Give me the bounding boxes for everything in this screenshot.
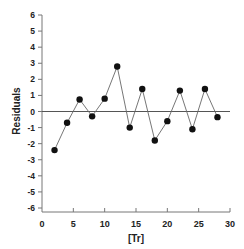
x-tick-label: 25 bbox=[194, 219, 204, 229]
data-series bbox=[51, 63, 220, 153]
x-tick-label: 30 bbox=[225, 219, 235, 229]
y-tick-label: -5 bbox=[27, 187, 35, 197]
y-tick-label: 6 bbox=[30, 10, 35, 20]
data-point bbox=[64, 120, 70, 126]
y-tick-label: 1 bbox=[30, 90, 35, 100]
y-tick-label: 0 bbox=[30, 107, 35, 117]
x-tick-label: 20 bbox=[162, 219, 172, 229]
data-point bbox=[202, 86, 208, 92]
y-tick-label: -2 bbox=[27, 139, 35, 149]
x-tick-label: 15 bbox=[131, 219, 141, 229]
y-tick-label: 4 bbox=[30, 42, 35, 52]
y-tick-label: 5 bbox=[30, 26, 35, 36]
data-point bbox=[101, 95, 107, 101]
data-point bbox=[164, 118, 170, 124]
y-tick-label: -4 bbox=[27, 171, 35, 181]
y-axis-label: Residuals bbox=[11, 87, 22, 135]
data-point bbox=[89, 113, 95, 119]
data-point bbox=[152, 137, 158, 143]
data-point bbox=[51, 147, 57, 153]
x-tick-label: 10 bbox=[100, 219, 110, 229]
data-point bbox=[139, 86, 145, 92]
y-tick-label: -6 bbox=[27, 203, 35, 213]
y-tick-label: 3 bbox=[30, 58, 35, 68]
data-point bbox=[114, 63, 120, 69]
x-axis-label: [Tr] bbox=[128, 233, 144, 244]
y-tick-label: -3 bbox=[27, 155, 35, 165]
y-tick-label: 2 bbox=[30, 74, 35, 84]
data-point bbox=[214, 114, 220, 120]
data-point bbox=[177, 87, 183, 93]
data-point bbox=[189, 126, 195, 132]
x-tick-label: 0 bbox=[39, 219, 44, 229]
x-tick-label: 5 bbox=[71, 219, 76, 229]
series-line bbox=[55, 67, 218, 151]
data-point bbox=[127, 124, 133, 130]
y-tick-label: -1 bbox=[27, 123, 35, 133]
residuals-chart: 6543210-1-2-3-4-5-6051015202530 [Tr] Res… bbox=[0, 0, 244, 249]
axes: 6543210-1-2-3-4-5-6051015202530 bbox=[27, 10, 235, 229]
data-point bbox=[76, 96, 82, 102]
